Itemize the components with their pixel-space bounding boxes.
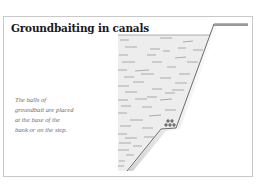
water-body [118, 35, 210, 171]
bank-top [214, 24, 248, 26]
canal-cross-section [0, 0, 258, 186]
